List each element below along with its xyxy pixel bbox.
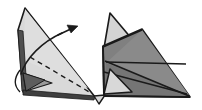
origami-diagram bbox=[0, 0, 202, 110]
right-bottom-edge bbox=[104, 96, 190, 97]
right-left-edge bbox=[103, 46, 104, 96]
diagram-canvas bbox=[0, 0, 202, 110]
